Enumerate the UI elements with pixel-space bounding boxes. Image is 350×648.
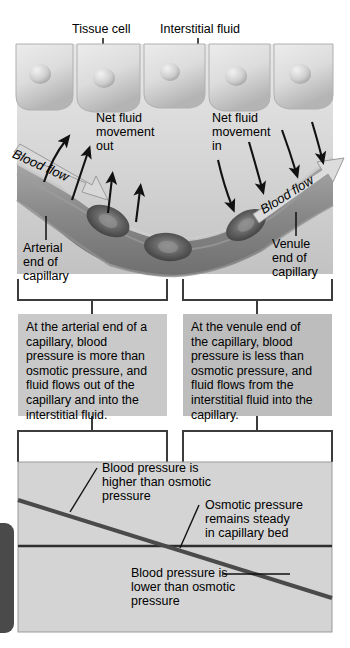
tissue-cell bbox=[16, 44, 73, 110]
tissue-cell bbox=[77, 44, 140, 112]
annotation-bp-higher: Blood pressure is higher than osmotic pr… bbox=[102, 461, 211, 503]
label-arterial-end: Arterial end of capillary bbox=[23, 241, 69, 283]
bracket-arterial bbox=[18, 279, 167, 314]
venule-explanation-text: At the venule end of the capillary, bloo… bbox=[191, 320, 331, 422]
tissue-cell bbox=[144, 44, 205, 108]
arterial-explanation-text: At the arterial end of a capillary, bloo… bbox=[26, 320, 166, 422]
tissue-cell bbox=[274, 44, 333, 109]
annotation-osmotic-steady: Osmotic pressure remains steady in capil… bbox=[205, 498, 303, 540]
tissue-cell bbox=[209, 44, 270, 111]
label-net-fluid-out: Net fluid movement out bbox=[96, 111, 154, 153]
label-venule-end: Venule end of capillary bbox=[272, 237, 318, 279]
annotation-bp-lower: Blood pressure is lower than osmotic pre… bbox=[131, 566, 235, 608]
label-net-fluid-in: Net fluid movement in bbox=[212, 111, 270, 153]
edge-block bbox=[0, 523, 14, 633]
capillary-fluid-exchange-figure: Tissue cell Interstitial fluid bbox=[0, 0, 350, 648]
bracket-venule bbox=[183, 279, 332, 314]
bracket-venule-lower bbox=[183, 416, 332, 462]
tissue-cell-row bbox=[16, 44, 333, 112]
bracket-arterial-lower bbox=[18, 416, 167, 462]
